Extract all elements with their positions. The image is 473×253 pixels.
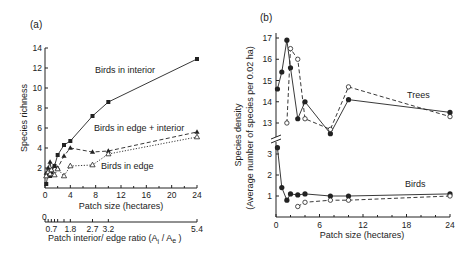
panel-b-y-axis-label: Species density: [233, 103, 243, 167]
series-birds-dashed-open-circles-: [296, 194, 453, 209]
figure: (a) Species richness 2468101214048121620…: [0, 0, 473, 253]
marker-open-circle: [346, 85, 350, 89]
marker-filled-square: [91, 114, 95, 118]
marker-filled-triangle: [47, 159, 52, 164]
panel-a: (a) Species richness 2468101214048121620…: [19, 19, 203, 245]
series-trees-solid-filled-circles-: [275, 38, 453, 137]
marker-filled-circle: [346, 97, 351, 102]
marker-filled-circle: [284, 38, 289, 43]
marker-filled-circle: [295, 192, 300, 197]
marker-filled-triangle: [61, 153, 66, 158]
panel-a-secondary-axis-label: Patch interior/ edge ratio (Ai / Ae ): [48, 233, 182, 245]
y-tick-label: 2: [267, 170, 272, 180]
y-tick-label: 6: [37, 123, 42, 133]
marker-filled-triangle: [194, 129, 199, 134]
y-tick-label: 1: [267, 191, 272, 201]
panel-b-series: [275, 38, 453, 209]
panel-b: (b) Species density (Average number of s…: [233, 12, 455, 240]
y-tick-label: 14: [33, 43, 43, 53]
y-tick-label: 15: [263, 76, 273, 86]
marker-open-circle: [303, 117, 307, 121]
y-tick-label: 17: [263, 33, 273, 43]
series-birds-in-edge: [44, 134, 200, 178]
marker-filled-circle: [288, 65, 293, 70]
x-tick-label: 18: [402, 220, 412, 230]
y-tick-label: 3: [267, 149, 272, 159]
y-tick-label: 10: [33, 83, 43, 93]
marker-open-circle: [285, 121, 289, 125]
marker-filled-circle: [275, 145, 280, 150]
marker-open-triangle: [194, 134, 199, 139]
panel-a-x-axis-label: Patch size (hectares): [79, 201, 164, 211]
marker-filled-circle: [279, 185, 284, 190]
marker-filled-circle: [275, 86, 280, 91]
marker-open-circle: [346, 198, 350, 202]
x-tick-label: 8: [93, 190, 98, 200]
marker-open-circle: [448, 114, 452, 118]
annotation-birds-in-edge: Birds in edge: [101, 161, 154, 171]
marker-open-circle: [328, 127, 332, 131]
marker-filled-circle: [279, 69, 284, 74]
x-tick-label: 0: [274, 220, 279, 230]
marker-filled-circle: [295, 116, 300, 121]
marker-filled-circle: [284, 198, 289, 203]
marker-filled-square: [44, 182, 48, 186]
marker-filled-square: [62, 143, 66, 147]
marker-open-circle: [296, 204, 300, 208]
panel-b-label: (b): [260, 12, 272, 23]
annotation-trees: Trees: [407, 90, 430, 100]
x-tick-label: 0: [43, 190, 48, 200]
marker-open-circle: [448, 194, 452, 198]
marker-open-circle: [296, 57, 300, 61]
marker-filled-square: [56, 153, 60, 157]
marker-open-circle: [288, 46, 292, 50]
panel-a-secondary-axis: 0.71.82.73.25.4: [45, 219, 203, 234]
panel-b-axes: 131415161712306121824: [263, 33, 455, 230]
marker-open-circle: [328, 198, 332, 202]
marker-open-triangle: [61, 173, 66, 178]
x-tick-label: 24: [445, 220, 455, 230]
x-tick-label: 16: [142, 190, 152, 200]
series-birds-solid-filled-circles-: [275, 145, 453, 203]
panel-b-x-axis-label: Patch size (hectares): [320, 230, 405, 240]
x-tick-label: 4: [68, 190, 73, 200]
marker-filled-square: [195, 57, 199, 61]
marker-filled-triangle: [68, 145, 73, 150]
marker-open-circle: [303, 200, 307, 204]
y-tick-label: 4: [37, 143, 42, 153]
secondary-tick-label: 5.4: [191, 224, 203, 234]
x-tick-label: 24: [192, 190, 202, 200]
marker-filled-square: [68, 139, 72, 143]
annotation-birds-in-interior: Birds in interior: [95, 65, 155, 75]
y-tick-label: 8: [37, 103, 42, 113]
panel-a-y-axis-label: Species richness: [19, 83, 29, 152]
y-tick-label: 14: [263, 97, 273, 107]
marker-open-triangle: [68, 163, 73, 168]
x-tick-label: 12: [116, 190, 126, 200]
marker-filled-square: [106, 100, 110, 104]
panel-a-label: (a): [30, 19, 42, 30]
y-tick-label: 2: [37, 163, 42, 173]
annotation-birds: Birds: [405, 179, 426, 189]
y-tick-label: 16: [263, 54, 273, 64]
panel-b-y-axis-label-2: (Average number of species per 0.02 ha): [245, 46, 255, 209]
x-tick-label: 12: [358, 220, 368, 230]
y-tick-label: 12: [33, 63, 43, 73]
annotation-birds-in-edge-interior: Birds in edge + interior: [94, 123, 184, 133]
series-trees-dashed-open-circles-: [285, 46, 453, 131]
marker-filled-circle: [302, 191, 307, 196]
marker-filled-circle: [288, 191, 293, 196]
marker-open-triangle: [90, 162, 95, 167]
x-tick-label: 20: [167, 190, 177, 200]
x-tick-label: 6: [317, 220, 322, 230]
y-tick-label: 13: [263, 118, 273, 128]
